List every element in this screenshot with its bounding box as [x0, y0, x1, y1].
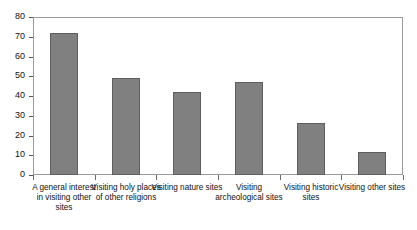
- y-axis-tick-mark: [29, 17, 33, 18]
- y-axis-tick-mark: [29, 57, 33, 58]
- x-axis-tick-mark: [156, 175, 157, 180]
- y-axis-tick-mark: [29, 155, 33, 156]
- x-axis-category-label: Visiting other sites: [336, 183, 408, 193]
- x-axis-tick-mark: [95, 175, 96, 180]
- y-axis-tick-label: 10: [3, 150, 25, 159]
- bar: [173, 92, 201, 175]
- bar: [297, 123, 325, 175]
- y-axis-tick-label: 30: [3, 111, 25, 120]
- y-axis-tick-mark: [29, 96, 33, 97]
- bar: [112, 78, 140, 175]
- y-axis-tick-label: 0: [3, 170, 25, 179]
- y-axis-tick-label: 50: [3, 71, 25, 80]
- plot-area: [33, 17, 403, 175]
- x-axis-tick-mark: [218, 175, 219, 180]
- y-axis-tick-label: 40: [3, 91, 25, 100]
- x-axis-tick-mark: [280, 175, 281, 180]
- y-axis-tick-mark: [29, 116, 33, 117]
- y-axis-tick-mark: [29, 136, 33, 137]
- bar: [358, 152, 386, 175]
- bar-chart: 01020304050607080 A general interest in …: [0, 0, 417, 230]
- y-axis-tick-label: 60: [3, 52, 25, 61]
- x-axis-tick-mark: [403, 175, 404, 180]
- y-axis-tick-mark: [29, 37, 33, 38]
- y-axis-tick-label: 20: [3, 131, 25, 140]
- y-axis-tick-mark: [29, 76, 33, 77]
- y-axis-tick-label: 70: [3, 32, 25, 41]
- x-axis-tick-mark: [341, 175, 342, 180]
- bar: [235, 82, 263, 175]
- y-axis-tick-label: 80: [3, 12, 25, 21]
- bar: [50, 33, 78, 175]
- x-axis-tick-mark: [33, 175, 34, 180]
